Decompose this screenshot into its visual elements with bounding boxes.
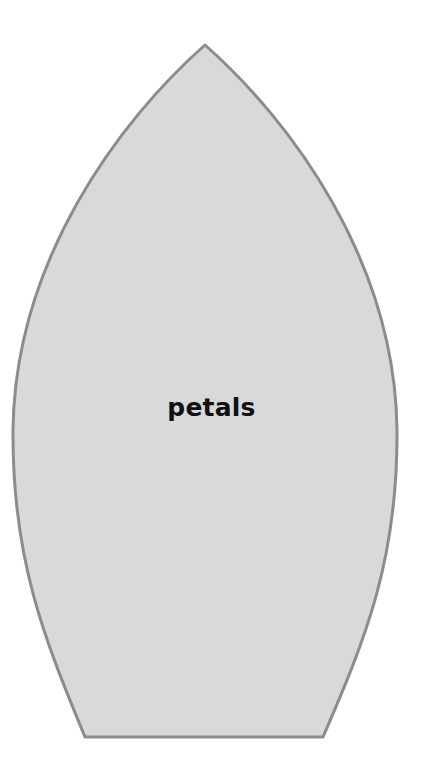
petal-shape: [13, 45, 397, 737]
petal-diagram: [0, 0, 423, 776]
petal-label: petals: [0, 393, 423, 422]
